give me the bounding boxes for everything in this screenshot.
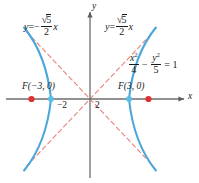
vertex-right-label: 2 — [95, 101, 100, 111]
asym-neg-x: x — [53, 21, 57, 32]
hyperbola-equation-label: x24 − y25 = 1 — [128, 52, 177, 75]
focus-left-label: F(−3, 0) — [22, 82, 55, 92]
asym-neg-denominator: 2 — [41, 27, 53, 38]
asym-neg-fraction: √52 — [41, 14, 53, 37]
eq-x-exponent: 2 — [134, 51, 137, 58]
focus-right-label: F(3, 0) — [118, 82, 144, 92]
hyperbola-figure: y=−√52x y=√52x x24 − y25 = 1 F(−3, 0) F(… — [0, 0, 199, 183]
asym-pos-radicand: 5 — [122, 14, 127, 26]
asym-neg-numerator: √5 — [41, 14, 53, 27]
eq-y-fraction: y25 — [151, 52, 161, 75]
asym-pos-numerator: √5 — [116, 14, 128, 27]
eq-x-numerator: x2 — [129, 52, 139, 65]
asym-pos-equals: = — [109, 21, 115, 32]
asymptote-negative-label: y=−√52x — [24, 14, 58, 37]
x-axis-label: x — [188, 92, 192, 102]
vertex-left-point — [48, 96, 54, 102]
eq-x-denominator: 4 — [129, 65, 139, 76]
vertex-left-label: −2 — [57, 101, 67, 111]
vertex-right-point — [126, 96, 132, 102]
eq-equals: = — [164, 59, 170, 70]
focus-left-point — [28, 96, 34, 102]
asym-neg-minus: − — [34, 21, 40, 32]
focus-right-point — [145, 96, 151, 102]
eq-y-exponent: 2 — [157, 51, 160, 58]
eq-y-denominator: 5 — [151, 65, 161, 76]
asym-neg-radicand: 5 — [46, 14, 51, 26]
asymptote-positive-label: y=√52x — [105, 14, 133, 37]
eq-x-fraction: x24 — [129, 52, 139, 75]
y-axis-label: y — [92, 2, 96, 12]
asym-pos-x: x — [129, 21, 133, 32]
asym-pos-fraction: √52 — [116, 14, 128, 37]
asym-pos-denominator: 2 — [116, 27, 128, 38]
eq-minus: − — [142, 59, 148, 70]
eq-y-numerator: y2 — [151, 52, 161, 65]
eq-rhs: 1 — [172, 59, 177, 70]
